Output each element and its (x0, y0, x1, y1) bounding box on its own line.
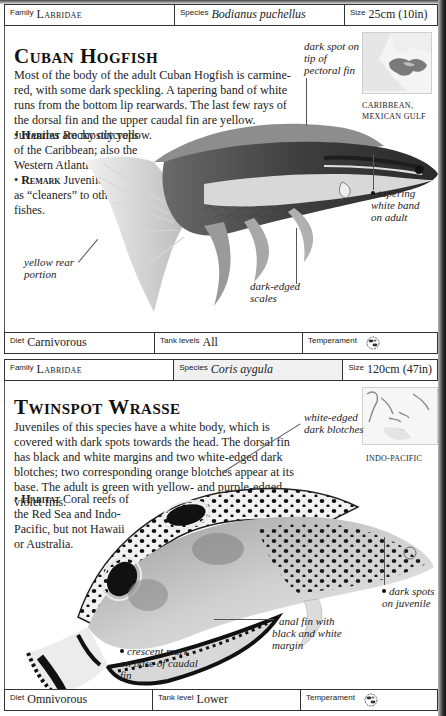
size-label: Size (350, 8, 366, 17)
species-label: Species (180, 8, 208, 17)
map-caption: CARIBBEAN, MEXICAN GULF (362, 100, 426, 122)
family-value: Labridae (37, 7, 82, 22)
family-label: Family (10, 363, 34, 372)
size-cell: Size 120cm (47in) (343, 360, 437, 380)
diet-cell: Diet Carnivorous (5, 333, 155, 353)
annotation-leader-anal (214, 619, 274, 620)
map-caption-line-1: CARIBBEAN, (362, 100, 426, 111)
tank-level-cell: Tank level Lower (153, 690, 301, 710)
species-cell: Species Bodianus puchellus (175, 5, 345, 25)
distribution-map (362, 387, 438, 445)
species-header-bar: Family Labridae Species Bodianus puchell… (4, 4, 438, 26)
habitat-label: Habitat (21, 128, 60, 142)
species-value: Coris aygula (211, 362, 273, 377)
diet-value: Omnivorous (27, 692, 87, 707)
species-cell: Species Coris aygula (174, 360, 343, 380)
annotation-dark-spots-text: dark spots on juvenile (382, 585, 435, 609)
annotation-white-edged-blotches: white-edged dark blotches (304, 411, 364, 435)
distribution-map (362, 32, 432, 94)
size-value: 25cm (10in) (369, 7, 428, 22)
tank-level-label: Tank level (158, 693, 194, 702)
annotation-dark-scales: dark-edged scales (250, 280, 310, 304)
annotation-leader-band (373, 154, 374, 190)
map-illustration (363, 388, 437, 444)
temperament-cell: Temperament (301, 690, 437, 710)
annotation-yellow-rear-text: yellow rear portion (24, 256, 74, 280)
size-cell: Size 25cm (10in) (345, 5, 437, 25)
annotation-leader-spots (384, 537, 385, 585)
annotation-leader-scales (296, 228, 297, 284)
bullet-dot (371, 191, 375, 195)
tank-level-label: Tank levels (160, 336, 200, 345)
annotation-anal-fin: anal fin with black and white margin (272, 615, 342, 651)
species-footer-bar: Diet Carnivorous Tank levels All Tempera… (4, 332, 438, 354)
size-label: Size (348, 363, 364, 372)
annotation-anal-fin-text: anal fin with black and white margin (272, 615, 342, 651)
family-cell: Family Labridae (5, 5, 175, 25)
temperament-label: Temperament (308, 336, 357, 345)
bullet-dot (120, 649, 124, 653)
species-entry-twinspot-wrasse: Family Labridae Species Coris aygula Siz… (4, 359, 438, 713)
species-label: Species (179, 363, 207, 372)
diet-cell: Diet Omnivorous (5, 690, 153, 710)
map-caption-line-2: MEXICAN GULF (362, 111, 426, 122)
bullet-dot (382, 589, 386, 593)
map-caption: INDO-PACIFIC (366, 453, 422, 464)
family-value: Labridae (37, 362, 82, 377)
tank-level-cell: Tank levels All (155, 333, 303, 353)
annotation-leader-pectoral (306, 78, 307, 126)
annotation-blotches-text: white-edged dark blotches (304, 411, 364, 435)
family-cell: Family Labridae (5, 360, 174, 380)
twinspot-wrasse-illustration (18, 467, 438, 699)
annotation-crescent-mark: crescent mark on base of caudal fin (120, 645, 200, 681)
community-fish-icon (366, 336, 380, 350)
species-entry-cuban-hogfish: Family Labridae Species Bodianus puchell… (4, 4, 438, 354)
community-fish-icon (364, 693, 378, 707)
annotation-white-band-text: tapering white band on adult (371, 187, 420, 223)
map-illustration (363, 33, 431, 93)
annotation-pectoral-spot: dark spot on tip of pectoral fin (304, 40, 364, 76)
species-footer-bar: Diet Omnivorous Tank level Lower Tempera… (4, 689, 438, 711)
remark-label: Remark (21, 173, 60, 187)
diet-value: Carnivorous (27, 335, 86, 350)
species-title: Cuban Hogfish (14, 44, 158, 69)
diet-label: Diet (10, 693, 24, 702)
bullet-dot (272, 619, 276, 623)
temperament-cell: Temperament (303, 333, 437, 353)
family-label: Family (10, 8, 34, 17)
annotation-white-band: tapering white band on adult (371, 187, 431, 223)
species-value: Bodianus puchellus (211, 7, 305, 22)
species-header-bar: Family Labridae Species Coris aygula Siz… (4, 359, 438, 381)
annotation-crescent-text: crescent mark on base of caudal fin (120, 645, 198, 681)
annotation-dark-spots: dark spots on juvenile (382, 585, 442, 609)
species-title: Twinspot Wrasse (14, 395, 181, 420)
diet-label: Diet (10, 336, 24, 345)
tank-level-value: All (203, 335, 218, 350)
size-value: 120cm (47in) (367, 362, 432, 377)
temperament-label: Temperament (306, 693, 355, 702)
tank-level-value: Lower (197, 692, 228, 707)
annotation-dark-scales-text: dark-edged scales (250, 280, 300, 304)
